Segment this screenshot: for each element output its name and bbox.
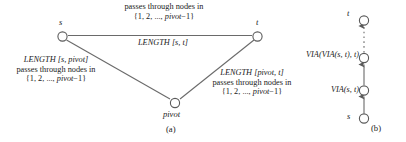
panel-b-label-via1: VIA(s, t) xyxy=(295,85,359,95)
left-edge-annotation-line2: passes through nodes in xyxy=(2,65,110,75)
panel-tag-a: (a) xyxy=(166,125,176,134)
set-suffix: −1} xyxy=(73,74,86,83)
length-args: [s, t] xyxy=(172,38,188,47)
node-b-via1 xyxy=(359,86,368,95)
left-edge-length-label: LENGTH [s, pivot] xyxy=(2,55,110,65)
top-edge-length-label: LENGTH [s, t] xyxy=(124,38,202,48)
node-label-b-t: t xyxy=(347,9,349,18)
right-edge-length-label: LENGTH [pivot, t] xyxy=(198,68,306,78)
node-s xyxy=(58,32,67,41)
set-prefix: {1, 2, ..., xyxy=(134,12,165,21)
node-label-pivot: pivot xyxy=(163,110,180,119)
left-edge-annotation-line3: {1, 2, ..., pivot−1} xyxy=(2,74,110,84)
figure-container: passes through nodes in {1, 2, ..., pivo… xyxy=(0,0,406,142)
panel-b-label-via2: VIA(VIA(s, t), t) xyxy=(283,50,359,60)
node-label-s: s xyxy=(59,18,62,27)
set-prefix: {1, 2, ..., xyxy=(222,87,253,96)
node-pivot xyxy=(170,98,179,107)
length-args: [pivot, t] xyxy=(254,68,284,77)
set-pivot-italic: pivot xyxy=(165,12,182,21)
node-label-b-s: s xyxy=(347,112,350,121)
node-label-t: t xyxy=(256,18,258,27)
left-edge-annotation: LENGTH [s, pivot] passes through nodes i… xyxy=(2,55,110,84)
top-edge-annotation-line2: {1, 2, ..., pivot−1} xyxy=(108,12,220,22)
node-b-t xyxy=(359,16,368,25)
via1-text: VIA(s, t) xyxy=(331,85,359,94)
set-suffix: −1} xyxy=(181,12,194,21)
set-prefix: {1, 2, ..., xyxy=(26,74,57,83)
right-edge-annotation: LENGTH [pivot, t] passes through nodes i… xyxy=(198,68,306,97)
node-t xyxy=(253,32,262,41)
set-suffix: −1} xyxy=(269,87,282,96)
panel-tag-b: (b) xyxy=(371,124,381,133)
top-edge-annotation: passes through nodes in {1, 2, ..., pivo… xyxy=(108,2,220,21)
node-b-s xyxy=(359,114,368,123)
set-pivot-italic: pivot xyxy=(57,74,74,83)
set-pivot-italic: pivot xyxy=(253,87,270,96)
length-args: [s, pivot] xyxy=(58,55,88,64)
node-b-via2 xyxy=(359,53,368,62)
length-keyword: LENGTH xyxy=(138,38,170,47)
length-keyword: LENGTH xyxy=(24,55,56,64)
via2-text: VIA(VIA(s, t), t) xyxy=(306,50,359,59)
right-edge-annotation-line2: passes through nodes in xyxy=(198,78,306,88)
length-keyword: LENGTH xyxy=(220,68,252,77)
top-edge-annotation-line1: passes through nodes in xyxy=(108,2,220,12)
right-edge-annotation-line3: {1, 2, ..., pivot−1} xyxy=(198,87,306,97)
